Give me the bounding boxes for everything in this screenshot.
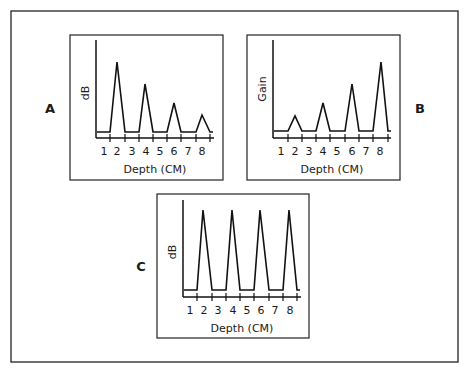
panel-c-x-label: Depth (CM) xyxy=(211,322,274,335)
svg-text:3: 3 xyxy=(306,145,313,158)
panel-c-signal-trace xyxy=(184,210,300,290)
panel-b-label: B xyxy=(415,101,425,116)
svg-text:1: 1 xyxy=(278,145,285,158)
panel-b: B 1 2 3 4 5 6 7 8 Depth (CM) Gain xyxy=(247,35,425,180)
panel-c-tick-labels: 1 2 3 4 5 6 7 8 xyxy=(187,304,294,317)
svg-text:8: 8 xyxy=(199,145,206,158)
panel-b-tick-labels: 1 2 3 4 5 6 7 8 xyxy=(278,145,384,158)
svg-text:4: 4 xyxy=(230,304,237,317)
panel-a-label: A xyxy=(45,101,55,116)
panel-a-x-label: Depth (CM) xyxy=(124,163,187,176)
panel-a-signal-trace xyxy=(97,62,213,132)
panel-a-tick-labels: 1 2 3 4 5 6 7 8 xyxy=(101,145,206,158)
svg-text:1: 1 xyxy=(101,145,108,158)
svg-text:5: 5 xyxy=(334,145,341,158)
svg-text:4: 4 xyxy=(320,145,327,158)
svg-text:1: 1 xyxy=(187,304,194,317)
panel-b-y-label: Gain xyxy=(256,76,269,101)
panel-c-y-label: dB xyxy=(166,245,179,260)
panel-a-frame xyxy=(70,35,223,180)
svg-text:4: 4 xyxy=(143,145,150,158)
panel-c: C 1 2 3 4 5 6 7 8 Depth (CM) dB xyxy=(136,194,309,338)
svg-text:7: 7 xyxy=(363,145,370,158)
svg-text:7: 7 xyxy=(185,145,192,158)
tgc-figure: A 1 2 3 4 5 6 7 8 Depth (CM) dB xyxy=(0,0,467,370)
svg-text:3: 3 xyxy=(129,145,136,158)
panel-b-x-label: Depth (CM) xyxy=(301,163,364,176)
svg-text:7: 7 xyxy=(272,304,279,317)
svg-text:5: 5 xyxy=(244,304,251,317)
svg-text:8: 8 xyxy=(377,145,384,158)
svg-text:6: 6 xyxy=(258,304,265,317)
panel-b-signal-trace xyxy=(274,62,391,131)
svg-text:6: 6 xyxy=(171,145,178,158)
panel-a-y-label: dB xyxy=(79,86,92,101)
panel-c-label: C xyxy=(136,259,146,274)
svg-text:3: 3 xyxy=(215,304,222,317)
svg-text:2: 2 xyxy=(292,145,299,158)
svg-text:8: 8 xyxy=(287,304,294,317)
svg-text:2: 2 xyxy=(114,145,121,158)
svg-text:6: 6 xyxy=(349,145,356,158)
svg-text:5: 5 xyxy=(157,145,164,158)
svg-text:2: 2 xyxy=(201,304,208,317)
panel-a: A 1 2 3 4 5 6 7 8 Depth (CM) dB xyxy=(45,35,223,180)
